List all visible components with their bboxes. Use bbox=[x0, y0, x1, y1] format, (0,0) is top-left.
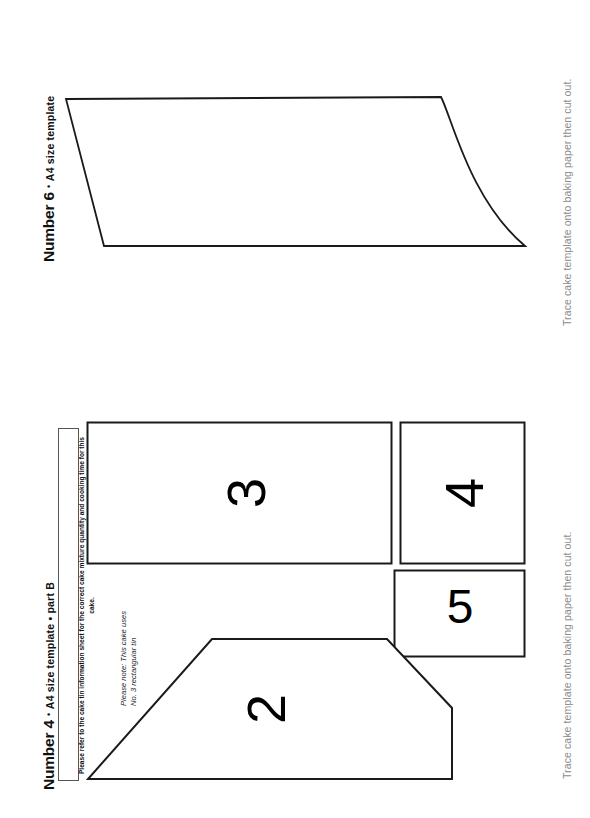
cake-tin-info-box: Please refer to the cake tin information… bbox=[58, 428, 79, 781]
trace-note-number-6: Trace cake template onto baking paper th… bbox=[561, 78, 573, 326]
section-title-number-4: Number 4•A4 size template • part B bbox=[40, 582, 58, 790]
trace-note-number-4: Trace cake template onto baking paper th… bbox=[561, 531, 573, 779]
section-title-main: Number 6 bbox=[40, 192, 57, 262]
please-note-line-2: No. 3 rectangular tin bbox=[128, 638, 139, 706]
piece-label-2: 2 bbox=[239, 679, 293, 739]
section-title-number-6: Number 6•A4 size template bbox=[40, 96, 58, 262]
cake-tin-info-text: Please refer to the cake tin information… bbox=[77, 433, 96, 778]
piece-label-5: 5 bbox=[430, 583, 490, 631]
section-title-sub: A4 size template • part B bbox=[44, 582, 56, 709]
title-separator-dot: • bbox=[44, 181, 54, 192]
piece-label-4: 4 bbox=[437, 463, 491, 523]
template-page: Number 6•A4 size template Trace cake tem… bbox=[0, 0, 590, 818]
section-title-sub: A4 size template bbox=[44, 96, 56, 181]
shape-curved-slab-piece bbox=[66, 97, 525, 246]
piece-label-3: 3 bbox=[219, 463, 273, 523]
title-separator-dot: • bbox=[44, 709, 54, 720]
section-title-main: Number 4 bbox=[40, 720, 57, 790]
